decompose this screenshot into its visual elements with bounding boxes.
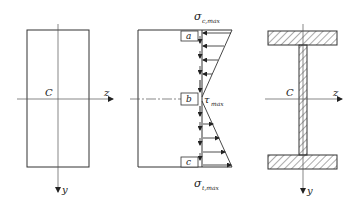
z-axis-label: z — [332, 87, 339, 98]
tau-max-subscript: max — [211, 100, 224, 107]
tension-profile-line — [202, 101, 232, 167]
figure-canvas: C z y a b — [0, 0, 355, 206]
top-flange — [268, 31, 337, 45]
z-axis-label: z — [103, 87, 110, 98]
i-beam-section-panel: C z y — [265, 24, 342, 196]
y-axis-label: y — [61, 184, 68, 195]
sigma-t-max-symbol: σ — [194, 177, 202, 190]
sigma-t-max-subscript: t,max — [202, 184, 220, 191]
y-axis-label: y — [306, 185, 313, 196]
compression-profile-line — [202, 30, 232, 97]
centroid-label: C — [286, 87, 294, 98]
point-a-label: a — [186, 31, 191, 41]
sigma-c-max-symbol: σ — [194, 10, 202, 23]
point-c-label: c — [186, 157, 191, 167]
tau-max-symbol: τ — [204, 94, 210, 105]
stress-distribution-panel: a b c σ c,max τ max σ t,max — [130, 10, 232, 191]
sigma-c-max-subscript: c,max — [202, 17, 221, 24]
point-b-label: b — [186, 94, 192, 104]
rectangular-section-panel: C z y — [17, 24, 113, 195]
centroid-label: C — [45, 87, 53, 98]
bottom-flange — [268, 155, 337, 169]
